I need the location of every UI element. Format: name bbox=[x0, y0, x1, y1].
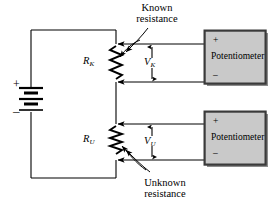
unknown-resistance-annotation-line2: resistance bbox=[130, 188, 200, 199]
potentiometer-top-minus-sign: – bbox=[213, 70, 218, 80]
voltage-known-symbol-subscript: K bbox=[150, 61, 155, 69]
known-resistance-annotation: Known resistance bbox=[126, 2, 188, 25]
potentiometer-top-plus-sign: + bbox=[213, 35, 218, 45]
potentiometer-bottom-minus-sign: – bbox=[213, 148, 218, 158]
potentiometer-bottom-plus-sign: + bbox=[213, 116, 218, 126]
battery-symbol bbox=[19, 88, 43, 110]
unknown-resistance-annotation: Unknown resistance bbox=[130, 177, 200, 200]
circuit-diagram-figure: Known resistance Unknown resistance RK R… bbox=[0, 0, 271, 209]
unknown-resistance-label: RU bbox=[83, 133, 94, 145]
potentiometer-top-label: Potentiometer bbox=[211, 51, 264, 61]
top-potentiometer-leads bbox=[118, 44, 204, 82]
known-resistance-annotation-line1: Known bbox=[142, 2, 173, 13]
unknown-resistance-annotation-line1: Unknown bbox=[144, 177, 185, 188]
known-resistance-symbol-subscript: K bbox=[89, 60, 94, 68]
battery-plus-sign: + bbox=[13, 78, 20, 90]
potentiometer-bottom-label: Potentiometer bbox=[211, 132, 264, 142]
main-circuit-loop bbox=[31, 30, 116, 178]
known-resistance-label: RK bbox=[83, 55, 94, 67]
unknown-resistance-symbol bbox=[110, 126, 122, 154]
unknown-resistance-symbol-subscript: U bbox=[89, 138, 94, 146]
known-resistance-leader-line bbox=[126, 28, 148, 52]
voltage-known-label: VK bbox=[144, 56, 155, 68]
unknown-resistance-leader-line bbox=[126, 150, 150, 172]
known-resistance-annotation-line2: resistance bbox=[126, 13, 188, 24]
battery-minus-sign: – bbox=[13, 104, 20, 117]
voltage-unknown-symbol-subscript: U bbox=[150, 140, 155, 148]
known-resistance-symbol bbox=[110, 46, 122, 79]
voltage-unknown-label: VU bbox=[144, 135, 155, 147]
